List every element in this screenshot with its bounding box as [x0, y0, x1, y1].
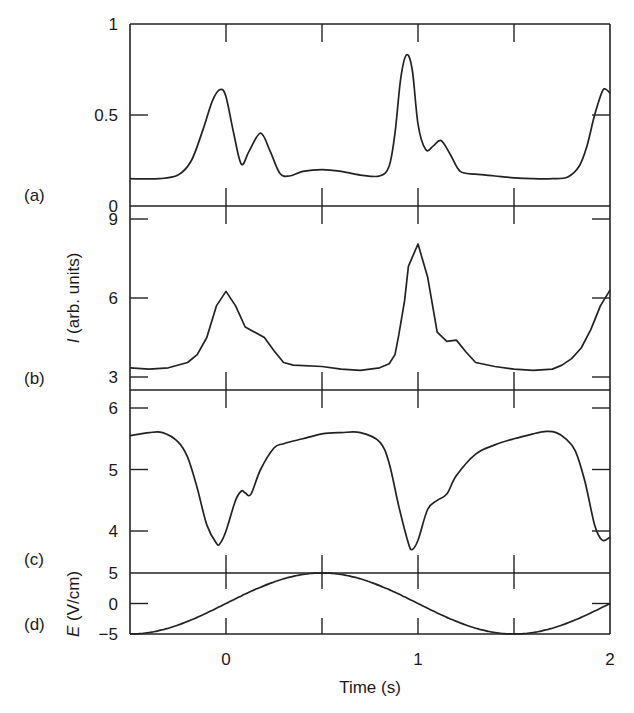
- x-tick-label-1: 1: [413, 650, 422, 669]
- curve-panel-c: [130, 431, 610, 549]
- y-axis-title-intensity: I (arb. units): [64, 253, 83, 344]
- x-tick-label-0: 0: [221, 650, 230, 669]
- y-axis-title-field: E (V/cm): [64, 571, 83, 637]
- y-tick-label: 5: [109, 564, 118, 583]
- x-axis-title: Time (s): [339, 678, 401, 697]
- axis-ticks: [130, 24, 610, 634]
- data-curves: [130, 55, 610, 634]
- y-tick-label: 9: [109, 210, 118, 229]
- y-tick-label: 1: [109, 15, 118, 34]
- panel-label-b: (b): [24, 369, 45, 388]
- y-tick-label: 0.5: [94, 106, 118, 125]
- y-tick-labels: 00.51369456−505: [94, 15, 118, 644]
- panel-label-a: (a): [24, 186, 45, 205]
- y-tick-label: 4: [109, 522, 118, 541]
- curve-panel-d: [130, 573, 610, 634]
- panel-label-c: (c): [24, 550, 44, 569]
- y-tick-label: −5: [99, 625, 118, 644]
- y-axis-title-intensity-units: (arb. units): [64, 253, 83, 339]
- panel-frames: [130, 24, 610, 634]
- y-axis-title-field-symbol: E: [64, 625, 83, 637]
- y-tick-label: 0: [109, 595, 118, 614]
- y-tick-label: 3: [109, 368, 118, 387]
- y-tick-label: 5: [109, 461, 118, 480]
- x-tick-label-2: 2: [605, 650, 614, 669]
- y-axis-title-field-units: (V/cm): [64, 571, 83, 626]
- panel-label-d: (d): [24, 615, 45, 634]
- curve-panel-a: [130, 55, 610, 179]
- y-tick-label: 6: [109, 289, 118, 308]
- y-tick-label: 6: [109, 399, 118, 418]
- stacked-time-series-chart: 00.51369456−505 0 1 2 Time (s) (a) (b) (…: [0, 0, 634, 713]
- curve-panel-b: [130, 244, 610, 370]
